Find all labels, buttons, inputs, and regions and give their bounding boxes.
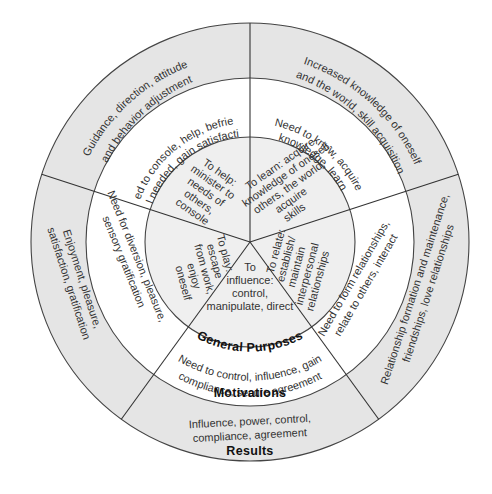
purpose-influence-line2: influence:: [226, 274, 273, 286]
purpose-influence-line1: To: [244, 261, 256, 273]
purpose-influence-line3: control,: [232, 287, 268, 299]
purposes-wheel-diagram: Guidance, direction, attitude and behavi…: [0, 0, 492, 494]
results-ring-label: Results: [226, 444, 273, 458]
motivations-ring-label: Motivations: [214, 386, 287, 400]
purpose-influence-line4: manipulate, direct: [207, 300, 294, 312]
